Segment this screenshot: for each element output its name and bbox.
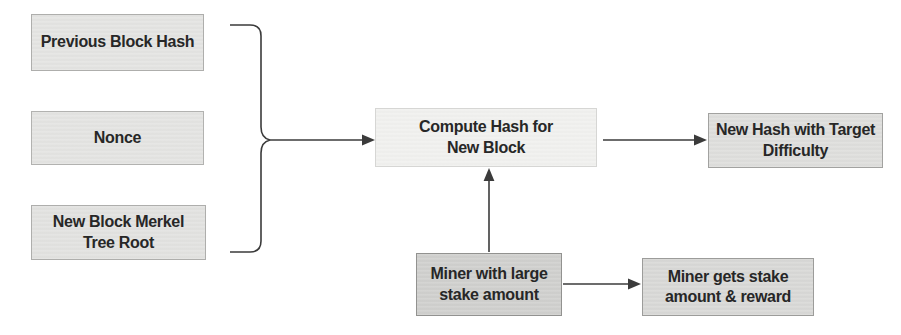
node-miner-large-stake: Miner with large stake amount bbox=[416, 253, 562, 316]
node-label: Nonce bbox=[94, 128, 141, 148]
flowchart-diagram: Previous Block Hash Nonce New Block Merk… bbox=[0, 0, 901, 335]
arrowhead-right-icon bbox=[628, 279, 641, 290]
node-label: New Block Merkel Tree Root bbox=[53, 212, 184, 253]
node-label: Miner with large stake amount bbox=[431, 264, 548, 305]
node-label: Compute Hash for New Block bbox=[419, 117, 553, 158]
arrow-compute-to-newhash bbox=[603, 135, 707, 146]
node-merkel-tree-root: New Block Merkel Tree Root bbox=[31, 205, 206, 260]
node-label: Previous Block Hash bbox=[41, 32, 194, 52]
arrow-brace-to-compute bbox=[270, 135, 375, 146]
arrowhead-right-icon bbox=[362, 135, 375, 146]
node-nonce: Nonce bbox=[31, 111, 204, 165]
arrowhead-up-icon bbox=[484, 168, 495, 181]
node-miner-gets-reward: Miner gets stake amount & reward bbox=[642, 258, 814, 316]
arrow-miner-to-compute bbox=[484, 168, 495, 252]
node-label: New Hash with Target Difficulty bbox=[716, 120, 875, 161]
node-previous-block-hash: Previous Block Hash bbox=[31, 14, 204, 71]
arrowhead-right-icon bbox=[694, 135, 707, 146]
inputs-brace bbox=[230, 25, 270, 252]
node-label: Miner gets stake amount & reward bbox=[665, 267, 791, 308]
arrow-miner-to-reward bbox=[563, 279, 641, 290]
node-compute-hash: Compute Hash for New Block bbox=[375, 108, 597, 167]
node-new-hash-target-difficulty: New Hash with Target Difficulty bbox=[708, 113, 883, 168]
